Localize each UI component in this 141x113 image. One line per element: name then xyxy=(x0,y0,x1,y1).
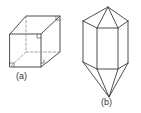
cube-diagram xyxy=(10,16,60,67)
right-angle-mark-front-top xyxy=(37,34,41,38)
crystal-top-outline xyxy=(83,7,128,21)
cube-front-face xyxy=(10,34,41,67)
panel-a-label: (a) xyxy=(16,72,27,81)
crystal-diagram xyxy=(83,7,128,97)
crystal-top-rim xyxy=(83,21,128,28)
crystal-bottom-rim xyxy=(83,62,128,69)
cube-right-edges xyxy=(41,16,60,67)
figure-canvas xyxy=(0,0,141,113)
cube-hidden-diagonal-edge xyxy=(10,52,26,67)
cube-top-edges xyxy=(10,16,60,34)
panel-b-label: (b) xyxy=(101,98,112,107)
